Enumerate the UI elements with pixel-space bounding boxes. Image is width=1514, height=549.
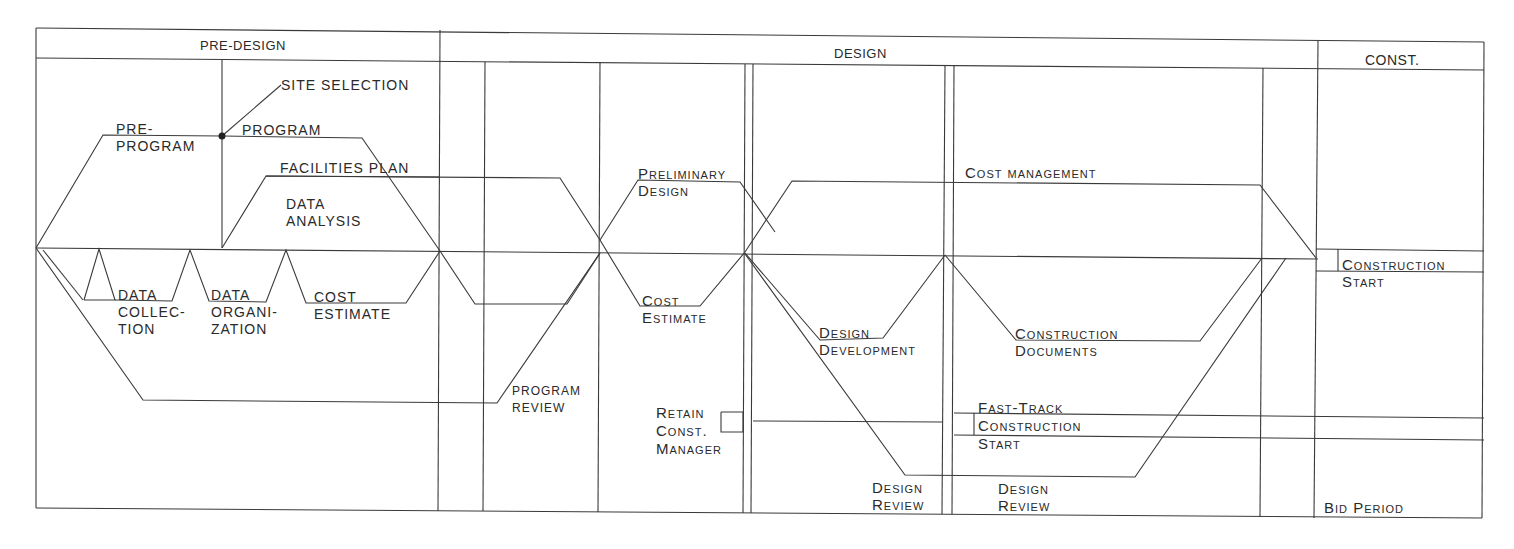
label-cost-management: Cost management bbox=[965, 164, 1096, 181]
label-cost-estimate-predesign: COST ESTIMATE bbox=[314, 289, 391, 323]
label-program-review: PROGRAM REVIEW bbox=[512, 383, 581, 417]
label-program: PROGRAM bbox=[242, 122, 321, 139]
label-data-collection: DATA COLLEC- TION bbox=[118, 287, 186, 338]
label-data-analysis: DATA ANALYSIS bbox=[286, 196, 361, 230]
label-preliminary-design: Preliminary Design bbox=[638, 165, 726, 199]
label-design-review-2: Design Review bbox=[998, 480, 1050, 514]
label-fast-track-construction-start: Fast-Track Construction Start bbox=[978, 399, 1082, 453]
frame bbox=[36, 28, 1484, 518]
label-retain-const-manager: Retain Const. Manager bbox=[656, 404, 722, 458]
process-diagram bbox=[0, 0, 1514, 549]
label-data-organization: DATA ORGANI- ZATION bbox=[211, 287, 278, 338]
label-construction-start: Construction Start bbox=[1342, 256, 1446, 290]
phase-header-construction: CONST. bbox=[1365, 52, 1419, 68]
phase-header-design: DESIGN bbox=[834, 46, 887, 61]
label-construction-documents: Construction Documents bbox=[1015, 325, 1119, 359]
phase-header-pre-design: PRE-DESIGN bbox=[200, 38, 286, 53]
label-design-development: Design Development bbox=[819, 324, 916, 358]
baseline bbox=[36, 248, 1318, 259]
label-design-review-1: Design Review bbox=[872, 479, 924, 513]
label-cost-estimate-design: Cost Estimate bbox=[642, 292, 707, 326]
label-pre-program: PRE- PROGRAM bbox=[116, 121, 195, 155]
label-facilities-plan: FACILITIES PLAN bbox=[280, 160, 409, 177]
label-site-selection: SITE SELECTION bbox=[281, 77, 409, 94]
label-bid-period: Bid Period bbox=[1324, 499, 1404, 516]
